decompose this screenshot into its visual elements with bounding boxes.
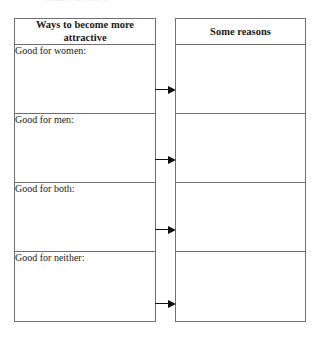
table-row (176, 114, 306, 183)
arrow-right-icon-row-2 (155, 155, 177, 164)
ways-row-good-for-women[interactable]: Good for women: (15, 45, 156, 114)
reasons-table-header: Some reasons (176, 19, 306, 45)
table-row (176, 45, 306, 114)
arrow-stem (155, 89, 171, 90)
arrow-stem (155, 303, 171, 304)
reasons-answer-blank-1[interactable] (176, 45, 306, 114)
ways-row-good-for-men[interactable]: Good for men: (15, 114, 156, 183)
arrow-right-icon-row-4 (155, 299, 177, 308)
arrow-right-icon-row-3 (155, 225, 177, 234)
table-row: Good for both: (15, 183, 156, 252)
ways-row-good-for-neither[interactable]: Good for neither: (15, 252, 156, 322)
reasons-table: Some reasons (175, 18, 306, 322)
table-row: Good for men: (15, 114, 156, 183)
arrow-stem (155, 229, 171, 230)
table-header-row: Ways to become more attractive (15, 19, 156, 45)
reasons-answer-blank-3[interactable] (176, 183, 306, 252)
clipped-paragraph-text: outline the above. (46, 0, 246, 3)
ways-row-good-for-both[interactable]: Good for both: (15, 183, 156, 252)
table-header-row: Some reasons (176, 19, 306, 45)
table-row (176, 252, 306, 322)
arrow-stem (155, 159, 171, 160)
table-row (176, 183, 306, 252)
reasons-answer-blank-4[interactable] (176, 252, 306, 322)
table-row: Good for women: (15, 45, 156, 114)
table-row: Good for neither: (15, 252, 156, 322)
arrow-right-icon-row-1 (155, 85, 177, 94)
ways-table-header: Ways to become more attractive (15, 19, 156, 45)
worksheet-page: outline the above. Ways to become more a… (0, 0, 319, 351)
ways-table: Ways to become more attractive Good for … (14, 18, 156, 322)
reasons-answer-blank-2[interactable] (176, 114, 306, 183)
